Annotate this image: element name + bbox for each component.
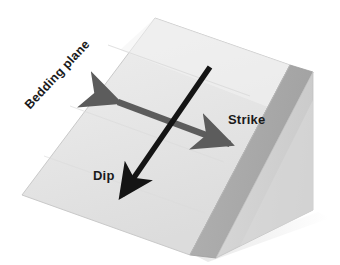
dip-label: Dip: [93, 168, 115, 183]
block-diagram-svg: [0, 0, 340, 265]
strike-label: Strike: [228, 112, 265, 127]
geology-block-diagram: Bedding plane Strike Dip: [0, 0, 340, 265]
